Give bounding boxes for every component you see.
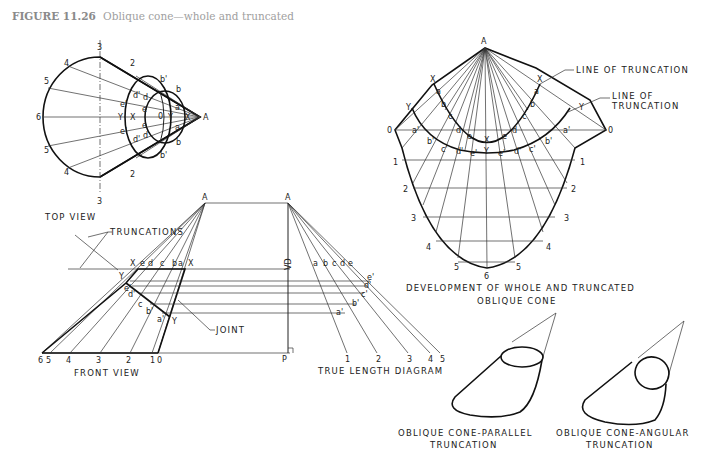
dev-apex-label: A bbox=[481, 37, 487, 46]
svg-text:c: c bbox=[448, 112, 452, 121]
svg-text:4: 4 bbox=[64, 168, 69, 177]
parallel-caption-1: OBLIQUE CONE-PARALLEL bbox=[398, 428, 533, 438]
svg-text:e: e bbox=[467, 132, 472, 141]
svg-text:e': e' bbox=[120, 100, 127, 109]
svg-text:a: a bbox=[175, 123, 180, 132]
svg-text:d: d bbox=[143, 93, 148, 102]
svg-text:X: X bbox=[130, 259, 136, 268]
tl-apex-label: A bbox=[285, 193, 291, 202]
svg-text:Y: Y bbox=[405, 103, 411, 112]
fv-apex-label: A bbox=[202, 193, 208, 202]
development-caption-2: OBLIQUE CONE bbox=[477, 296, 557, 306]
svg-text:b: b bbox=[530, 100, 535, 109]
development-caption-1: DEVELOPMENT OF WHOLE AND TRUNCATED bbox=[406, 283, 635, 293]
svg-text:b: b bbox=[441, 100, 446, 109]
svg-text:5: 5 bbox=[454, 263, 459, 272]
pictorial-parallel-truncation: OBLIQUE CONE-PARALLEL TRUNCATION bbox=[398, 313, 556, 450]
joint-label: JOINT bbox=[215, 325, 245, 335]
svg-text:b': b' bbox=[545, 137, 552, 146]
tl-caption: TRUE LENGTH DIAGRAM bbox=[317, 366, 443, 376]
svg-text:2: 2 bbox=[130, 59, 135, 68]
oblique-cone-drawing: 3 3 4 4 5 5 6 2 2 A Y X 0 Y X b' b' b b … bbox=[0, 0, 724, 468]
svg-text:a': a' bbox=[336, 308, 343, 317]
svg-text:1: 1 bbox=[393, 158, 398, 167]
svg-text:c: c bbox=[522, 112, 526, 121]
svg-text:Y: Y bbox=[483, 147, 489, 156]
svg-text:c: c bbox=[138, 300, 142, 309]
svg-text:X: X bbox=[537, 75, 543, 84]
tv-apex-label: A bbox=[203, 113, 209, 122]
svg-text:c': c' bbox=[441, 145, 448, 154]
svg-text:b: b bbox=[176, 138, 181, 147]
tl-foot-label: P bbox=[282, 355, 287, 364]
svg-text:a': a' bbox=[563, 126, 570, 135]
svg-text:2: 2 bbox=[571, 185, 576, 194]
svg-text:e': e' bbox=[498, 149, 505, 158]
svg-text:c': c' bbox=[361, 290, 368, 299]
svg-text:4: 4 bbox=[428, 355, 433, 364]
svg-text:3: 3 bbox=[411, 214, 416, 223]
svg-text:e: e bbox=[502, 132, 507, 141]
svg-text:b: b bbox=[172, 259, 177, 268]
svg-text:3: 3 bbox=[407, 355, 412, 364]
svg-text:a': a' bbox=[157, 315, 164, 324]
svg-text:d': d' bbox=[128, 290, 135, 299]
svg-text:2: 2 bbox=[403, 185, 408, 194]
svg-text:5: 5 bbox=[44, 77, 49, 86]
svg-text:d: d bbox=[143, 131, 148, 140]
svg-text:Y: Y bbox=[167, 113, 173, 122]
angular-caption-1: OBLIQUE CONE-ANGULAR bbox=[556, 428, 690, 438]
angular-caption-2: TRUNCATION bbox=[585, 440, 654, 450]
svg-text:0: 0 bbox=[157, 356, 162, 365]
svg-text:6: 6 bbox=[38, 356, 43, 365]
tv-label-3b: 3 bbox=[97, 197, 102, 206]
svg-text:d': d' bbox=[133, 91, 140, 100]
line-of-truncation-2a: LINE OF bbox=[612, 91, 654, 101]
svg-text:a: a bbox=[436, 87, 441, 96]
svg-text:a: a bbox=[313, 259, 318, 268]
svg-text:4: 4 bbox=[64, 59, 69, 68]
svg-text:4: 4 bbox=[66, 356, 71, 365]
svg-text:Y: Y bbox=[118, 272, 124, 281]
svg-text:c: c bbox=[332, 259, 336, 268]
svg-text:d: d bbox=[340, 259, 345, 268]
svg-text:6: 6 bbox=[484, 272, 489, 281]
svg-text:0: 0 bbox=[158, 112, 163, 121]
svg-text:c: c bbox=[160, 259, 164, 268]
svg-text:b': b' bbox=[427, 137, 434, 146]
svg-text:3: 3 bbox=[96, 356, 101, 365]
line-of-truncation-2b: TRUNCATION bbox=[611, 101, 680, 111]
svg-text:6: 6 bbox=[36, 113, 41, 122]
svg-text:1: 1 bbox=[345, 355, 350, 364]
svg-text:X: X bbox=[188, 259, 194, 268]
svg-text:e: e bbox=[142, 121, 147, 130]
svg-text:d': d' bbox=[514, 147, 521, 156]
svg-text:b': b' bbox=[146, 307, 153, 316]
svg-text:X: X bbox=[185, 113, 191, 122]
svg-text:b': b' bbox=[160, 151, 167, 160]
svg-text:e': e' bbox=[120, 127, 127, 136]
svg-text:5: 5 bbox=[440, 355, 445, 364]
svg-text:b': b' bbox=[352, 299, 359, 308]
svg-text:0: 0 bbox=[608, 126, 613, 135]
svg-text:d: d bbox=[148, 259, 153, 268]
front-view-caption: FRONT VIEW bbox=[74, 368, 140, 378]
svg-text:b: b bbox=[323, 259, 328, 268]
svg-text:1: 1 bbox=[580, 158, 585, 167]
top-view: 3 3 4 4 5 5 6 2 2 A Y X 0 Y X b' b' b b … bbox=[36, 40, 209, 222]
tv-label-3: 3 bbox=[97, 43, 102, 52]
svg-text:d': d' bbox=[456, 147, 463, 156]
truncations-label: TRUNCATIONS bbox=[109, 227, 184, 237]
svg-text:4: 4 bbox=[546, 243, 551, 252]
svg-text:b: b bbox=[176, 85, 181, 94]
svg-text:4: 4 bbox=[426, 243, 431, 252]
svg-text:a': a' bbox=[412, 126, 419, 135]
vd-label: VD bbox=[284, 258, 293, 270]
svg-text:0: 0 bbox=[387, 126, 392, 135]
svg-text:e: e bbox=[142, 105, 147, 114]
svg-text:X: X bbox=[430, 75, 436, 84]
svg-text:a: a bbox=[178, 259, 183, 268]
svg-text:2: 2 bbox=[376, 355, 381, 364]
svg-text:X: X bbox=[130, 113, 136, 122]
development: LINE OF TRUNCATION LINE OF TRUNCATION A … bbox=[387, 37, 689, 306]
